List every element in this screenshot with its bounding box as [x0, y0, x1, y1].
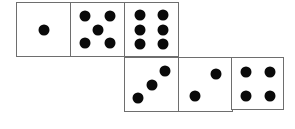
pip — [105, 10, 116, 21]
pip — [92, 24, 103, 35]
pip — [38, 24, 49, 35]
pip — [105, 38, 116, 49]
die-face-4 — [231, 57, 284, 110]
pip — [160, 65, 171, 76]
pip — [158, 39, 169, 50]
pip — [79, 10, 90, 21]
die-face-5 — [70, 2, 125, 57]
pip — [189, 91, 200, 102]
pip — [134, 24, 145, 35]
pip — [264, 90, 275, 101]
pip — [264, 67, 275, 78]
pip — [79, 38, 90, 49]
pip — [241, 90, 252, 101]
pip — [134, 9, 145, 20]
die-face-1 — [16, 2, 71, 57]
dice-net-figure — [0, 0, 295, 129]
pip — [158, 9, 169, 20]
pip — [241, 67, 252, 78]
die-face-2 — [178, 57, 233, 112]
die-face-6 — [124, 2, 179, 57]
pip — [158, 24, 169, 35]
pip — [134, 39, 145, 50]
die-face-3 — [124, 57, 179, 112]
pip — [211, 68, 222, 79]
pip — [132, 93, 143, 104]
pip — [146, 79, 157, 90]
